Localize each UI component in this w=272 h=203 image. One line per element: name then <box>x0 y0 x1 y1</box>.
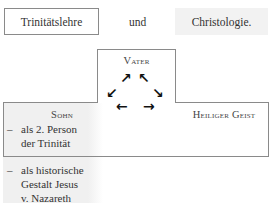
arrow-up-left-icon: ↖ <box>138 71 150 85</box>
arrow-up-right-icon: ↗ <box>120 71 132 85</box>
trinitaetslehre-label: Trinitätslehre <box>21 16 83 28</box>
arrow-left-icon: ← <box>116 99 128 113</box>
vater-label: Vater <box>97 55 176 66</box>
dash: – <box>7 122 21 136</box>
sohn-label: Sohn <box>3 109 103 120</box>
dash: – <box>7 163 21 177</box>
christologie-box: Christologie. <box>175 8 268 35</box>
und-label: und <box>110 8 165 35</box>
heiliger-geist-label: Heiliger Geist <box>180 109 268 120</box>
trinitaetslehre-box: Trinitätslehre <box>4 8 99 35</box>
sohn-item-2: –als historische Gestalt Jesus v. Nazare… <box>7 163 84 203</box>
sohn-item-1: –als 2. Person der Trinität <box>7 122 77 150</box>
christologie-label: Christologie. <box>192 16 252 28</box>
arrow-right-icon: → <box>143 99 155 113</box>
